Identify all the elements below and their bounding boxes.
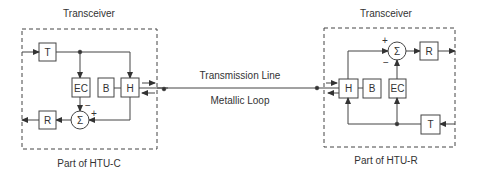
left-hybrid-label: H bbox=[126, 83, 133, 94]
right-receiver-label: R bbox=[425, 46, 432, 57]
right-balance-label: B bbox=[369, 83, 376, 94]
left-transceiver-title: Transceiver bbox=[63, 8, 116, 19]
left-sum-symbol: Σ bbox=[77, 115, 83, 126]
echo-cancellation-diagram: Transceiver Part of HTU-C T EC B H R Σ −… bbox=[0, 0, 477, 180]
left-transmitter-label: T bbox=[44, 47, 50, 58]
right-caption: Part of HTU-R bbox=[354, 155, 417, 166]
left-ec-label: EC bbox=[74, 83, 88, 94]
right-plus-sign: + bbox=[382, 35, 388, 46]
right-minus-sign: − bbox=[383, 57, 389, 68]
metallic-loop-label: Metallic Loop bbox=[211, 95, 270, 106]
right-transmitter-label: T bbox=[427, 119, 433, 130]
right-sum-symbol: Σ bbox=[394, 46, 400, 57]
left-caption: Part of HTU-C bbox=[57, 158, 120, 169]
right-ec-label: EC bbox=[391, 83, 405, 94]
right-hybrid-label: H bbox=[345, 83, 352, 94]
left-balance-label: B bbox=[103, 83, 110, 94]
transmission-line-label: Transmission Line bbox=[200, 70, 281, 81]
left-plus-sign: + bbox=[91, 108, 97, 119]
right-transceiver-title: Transceiver bbox=[360, 8, 413, 19]
left-receiver-label: R bbox=[44, 115, 51, 126]
